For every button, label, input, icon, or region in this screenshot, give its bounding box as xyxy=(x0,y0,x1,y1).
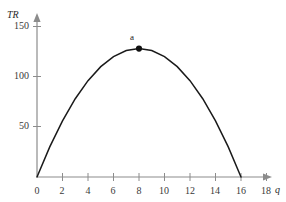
x-tick-label-10: 10 xyxy=(155,186,173,196)
y-axis-arrow-icon xyxy=(33,13,40,22)
x-tick-label-14: 14 xyxy=(206,186,224,196)
x-tick-label-6: 6 xyxy=(104,186,122,196)
chart-canvas xyxy=(0,0,286,202)
x-tick-label-2: 2 xyxy=(53,186,71,196)
y-tick-label-50: 50 xyxy=(2,121,29,131)
total-revenue-chart: TR q 150 100 50 0 2 4 6 8 10 12 14 16 18… xyxy=(0,0,286,202)
x-tick-label-18: 18 xyxy=(257,186,275,196)
x-axis-arrow-icon xyxy=(263,173,272,180)
x-tick-label-16: 16 xyxy=(232,186,250,196)
x-tick-label-8: 8 xyxy=(130,186,148,196)
x-tick-label-0: 0 xyxy=(28,186,46,196)
y-tick-label-100: 100 xyxy=(2,71,29,81)
annotation-label-a: a xyxy=(130,33,134,42)
total-revenue-curve xyxy=(37,49,241,177)
x-tick-label-12: 12 xyxy=(181,186,199,196)
x-axis-title: q xyxy=(275,185,280,195)
y-axis-title: TR xyxy=(7,10,19,20)
x-tick-label-4: 4 xyxy=(79,186,97,196)
y-tick-label-150: 150 xyxy=(2,21,29,31)
max-point-marker xyxy=(136,45,142,51)
